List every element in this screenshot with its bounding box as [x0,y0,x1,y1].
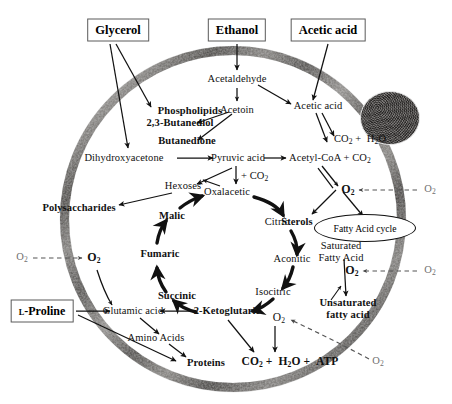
oxygen-label-inside-fatty-acid: O2 [345,264,358,278]
oxygen-label-outside-right-upper: O2 [424,183,436,196]
node-unsaturated-fatty-acid: Unsaturated fatty acid [306,297,390,321]
tca-node-fumaric: Fumaric [140,248,179,260]
substrate-label-glycerol: Glycerol [95,23,141,37]
node-butanedione: Butanedione [158,135,216,147]
node-dihydroxyacetone: Dihydroxyacetone [84,152,163,164]
node-co2-h2o: CO2 + H2O [334,133,386,146]
saturated-line2: Fatty Acid [318,252,363,263]
node-phospholipids: Phospholipids [158,105,222,117]
fatty-acid-cycle-node: Fatty Acid cycle [314,214,416,242]
tca-node-2-ketoglutaric: 2-Ketoglutaric [194,305,261,317]
node-proteins: Proteins [187,357,225,369]
oxygen-label-outside-left: O2 [16,251,28,264]
oxygen-label-outside-right-lower: O2 [424,264,436,277]
diagram-canvas: Glycerol Ethanol Acetic acid L-Proline A… [0,0,452,404]
substrate-label-acetic-acid: Acetic acid [299,23,358,37]
node-glutamic-acid: Glutamic acid [103,305,164,317]
tca-node-aconitic: Aconitic [274,253,311,265]
node-acetoin: Acetoin [220,104,254,116]
substrate-box-ethanol[interactable]: Ethanol [208,19,266,42]
node-acetaldehyde: Acetaldehyde [208,73,267,85]
node-2-3-butanediol: 2,3-Butanediol [146,117,213,129]
substrate-label-ethanol: Ethanol [216,23,258,37]
node-amino-acids: Amino Acids [128,332,185,344]
node-polysaccharides: Polysaccharides [42,202,115,214]
tca-node-citric: Citric [265,216,290,228]
node-pyruvic-acid: Pyruvic acid [211,152,265,164]
oxygen-label-inside-left: O2 [87,251,100,265]
substrate-box-acetic-acid[interactable]: Acetic acid [291,19,366,42]
oxygen-label-inside-acetyl-coa: O2 [341,183,354,197]
oxygen-label-inside-atp: O2 [273,311,285,325]
fatty-acid-cycle-label: Fatty Acid cycle [334,223,397,234]
node-acetyl-coa: Acetyl-CoA + CO2 [289,152,371,165]
tca-node-malic: Malic [159,210,185,222]
substrate-box-l-proline[interactable]: L-Proline [11,300,74,323]
oxygen-label-outside-bottom: O2 [372,355,384,368]
node-saturated-fatty-acid: Saturated Fatty Acid [302,240,380,264]
node-plus-co2: + CO2 [241,170,268,183]
unsaturated-line2: fatty acid [326,309,369,320]
tca-node-succinic: Succinic [158,290,196,302]
node-acetic-acid-internal: Acetic acid [294,100,343,112]
tca-node-oxalacetic: Oxalacetic [204,186,250,198]
l-proline-rest: -Proline [24,304,65,318]
saturated-line1: Saturated [321,240,362,251]
substrate-box-glycerol[interactable]: Glycerol [87,19,149,42]
unsaturated-line1: Unsaturated [319,297,376,308]
node-hexoses: Hexoses [165,180,201,192]
node-co2-h2o-atp: CO2 + H2O + ATP [242,355,339,369]
tca-node-isocitric: Isocitric [255,286,290,298]
